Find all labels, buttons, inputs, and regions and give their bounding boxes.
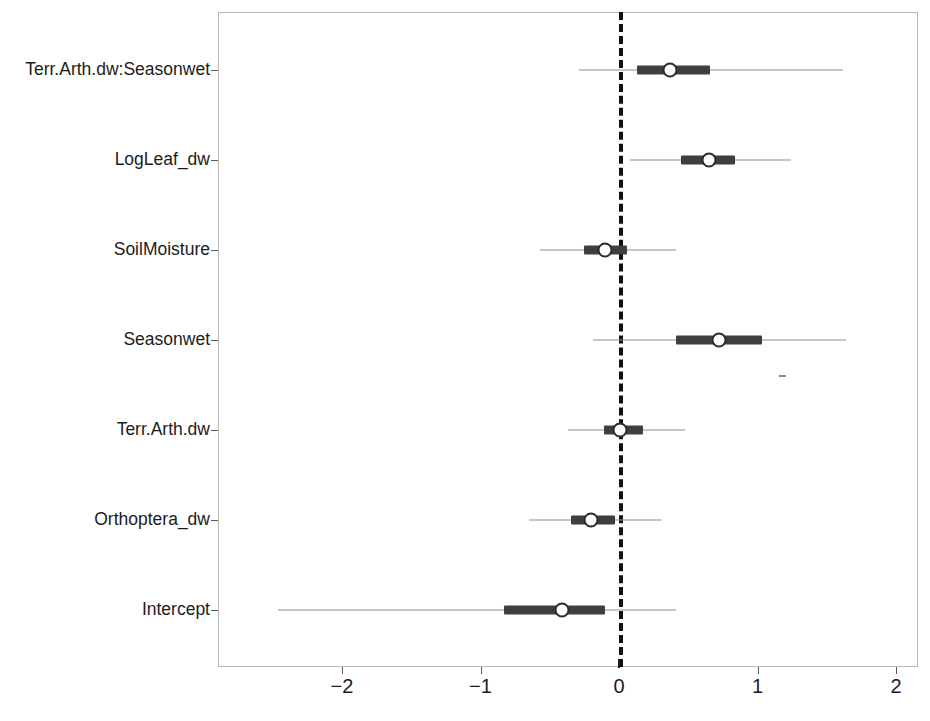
y-axis-label-text: Terr.Arth.dw: [117, 419, 210, 439]
y-axis-label-text: Seasonwet: [123, 329, 210, 349]
y-axis-label-logleaf-dw: LogLeaf_dw: [0, 151, 210, 169]
point-estimate-marker: [584, 513, 599, 528]
x-tick-label: 0: [613, 676, 624, 696]
y-axis-label-text: Intercept: [142, 599, 210, 619]
y-axis-label-terr-arth-dw: Terr.Arth.dw: [0, 421, 210, 439]
forest-plot-figure: Terr.Arth.dw:Seasonwet LogLeaf_dw SoilMo…: [0, 0, 930, 721]
point-estimate-marker: [702, 153, 717, 168]
point-estimate-marker: [663, 63, 678, 78]
y-axis-label-orthoptera-dw: Orthoptera_dw: [0, 511, 210, 529]
point-estimate-marker: [555, 603, 570, 618]
y-tick-mark: [211, 160, 218, 161]
x-tick-mark: [758, 667, 759, 674]
y-tick-mark: [211, 250, 218, 251]
x-tick-mark: [342, 667, 343, 674]
y-axis-label-text: LogLeaf_dw: [115, 149, 210, 169]
point-estimate-marker: [613, 423, 628, 438]
point-estimate-marker: [598, 243, 613, 258]
x-tick-label: −2: [331, 676, 354, 696]
x-tick-mark: [618, 659, 620, 668]
y-axis-label-intercept: Intercept: [0, 601, 210, 619]
x-tick-mark: [481, 667, 482, 674]
y-tick-mark: [211, 520, 218, 521]
y-axis-label-seasonwet: Seasonwet: [0, 331, 210, 349]
y-axis-label-text: Orthoptera_dw: [94, 509, 210, 529]
y-tick-mark: [211, 70, 218, 71]
y-tick-mark: [211, 610, 218, 611]
outer-interval-line: [278, 610, 675, 611]
y-axis-label-text: Terr.Arth.dw:Seasonwet: [25, 59, 210, 79]
y-tick-mark: [211, 340, 218, 341]
outer-interval-line: [579, 70, 844, 71]
scan-artifact: [779, 375, 786, 377]
x-tick-label: 1: [752, 676, 763, 696]
y-axis-label-terr-arth-dw-seasonwet: Terr.Arth.dw:Seasonwet: [0, 61, 210, 79]
y-axis-label-soilmoisture: SoilMoisture: [0, 241, 210, 259]
x-tick-mark: [896, 667, 897, 674]
y-tick-mark: [211, 430, 218, 431]
x-tick-label: 2: [890, 676, 901, 696]
y-axis-label-text: SoilMoisture: [114, 239, 210, 259]
x-tick-label: −1: [469, 676, 492, 696]
point-estimate-marker: [711, 333, 726, 348]
